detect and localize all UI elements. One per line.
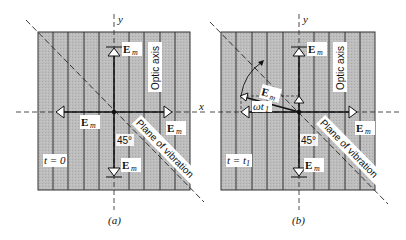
optic-axis-label-b: Optic axis: [333, 42, 347, 92]
x-axis-label: x: [198, 100, 204, 112]
svg-text:t = 0: t = 0: [44, 154, 66, 166]
time-label-b: t = t 1: [226, 154, 252, 168]
y-axis-label-b: y: [302, 13, 308, 25]
svg-text:1: 1: [265, 105, 269, 114]
svg-text:t = t: t = t: [227, 154, 247, 166]
svg-text:m: m: [131, 164, 137, 173]
em-label-right-a: E m: [166, 121, 186, 136]
em-label-right-b: E m: [355, 121, 375, 136]
angle-label-a: 45°: [116, 134, 134, 146]
omega-t-label-b: ωt 1: [252, 100, 272, 114]
panel-a: E m E m E m E m Optic axis 45°: [16, 13, 207, 227]
svg-text:m: m: [132, 48, 138, 57]
svg-text:m: m: [90, 121, 96, 130]
svg-text:m: m: [314, 164, 320, 173]
svg-text:m: m: [365, 127, 371, 136]
svg-text:E: E: [305, 159, 312, 171]
em-label-left-a: E m: [80, 115, 100, 130]
svg-text:ωt: ωt: [253, 100, 265, 112]
optic-axis-label-a: Optic axis: [148, 42, 162, 92]
origin-a: [112, 110, 116, 114]
em-label-top-a: E m: [122, 42, 142, 57]
svg-text:E: E: [308, 43, 315, 55]
svg-text:E: E: [81, 116, 88, 128]
svg-text:E: E: [356, 122, 363, 134]
caption-a: (a): [108, 214, 121, 227]
svg-text:45°: 45°: [117, 135, 132, 146]
em-label-bottom-a: E m: [121, 158, 141, 173]
svg-text:m: m: [317, 48, 323, 57]
angle-label-b: 45°: [300, 134, 318, 146]
svg-text:45°: 45°: [301, 135, 316, 146]
em-label-bottom-b: E m: [304, 158, 324, 173]
polarization-figure: E m E m E m E m Optic axis 45°: [0, 0, 406, 240]
svg-text:E: E: [167, 122, 174, 134]
em-label-top-b: E m: [307, 42, 327, 57]
panel-b: E m E m ωt 1 E m E m Optic axis: [210, 13, 400, 227]
svg-text:E: E: [123, 43, 130, 55]
svg-text:Optic axis: Optic axis: [150, 46, 161, 90]
origin-b: [297, 110, 301, 114]
y-axis-label-a: y: [117, 13, 123, 25]
svg-text:E: E: [122, 159, 129, 171]
time-label-a: t = 0: [43, 154, 67, 167]
svg-text:1: 1: [246, 159, 250, 168]
svg-text:m: m: [176, 127, 182, 136]
svg-text:Optic axis: Optic axis: [335, 46, 346, 90]
caption-b: (b): [292, 214, 305, 227]
